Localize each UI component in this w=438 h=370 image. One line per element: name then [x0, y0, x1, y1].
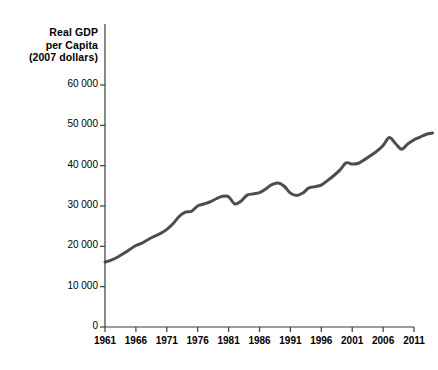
gdp-per-capita-line: [105, 133, 433, 262]
x-axis-ticks: [105, 327, 414, 332]
y-axis-tick-label: 10 000: [28, 280, 98, 291]
y-axis-tick-label: 50 000: [28, 118, 98, 129]
x-axis-tick-label: 2011: [394, 335, 434, 346]
chart-figure: Real GDP per Capita (2007 dollars) 010 0…: [0, 0, 438, 370]
y-axis-tick-label: 20 000: [28, 239, 98, 250]
y-axis-ticks: [100, 85, 105, 327]
y-axis-tick-label: 40 000: [28, 159, 98, 170]
y-axis-tick-label: 0: [28, 320, 98, 331]
axis-lines: [105, 24, 414, 327]
y-axis-tick-label: 60 000: [28, 78, 98, 89]
y-axis-tick-label: 30 000: [28, 199, 98, 210]
chart-plot-area: [0, 0, 438, 370]
